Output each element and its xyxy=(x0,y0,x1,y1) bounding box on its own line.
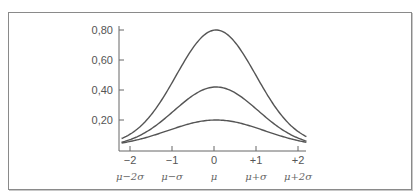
y-tick-label: 0,60 xyxy=(92,54,113,66)
y-tick-label: 0,40 xyxy=(92,84,113,96)
curves xyxy=(122,30,307,143)
x-tick-label: −1 xyxy=(166,154,179,166)
x-tick-label: −2 xyxy=(124,154,137,166)
x-tick-sublabel: μ−2σ xyxy=(116,171,145,182)
y-tick-label: 0,80 xyxy=(92,24,113,36)
curve-low xyxy=(122,120,307,143)
x-tick-label: +2 xyxy=(292,154,305,166)
x-tick-sublabel: μ xyxy=(211,171,218,182)
x-tick-sublabel: μ+2σ xyxy=(284,171,313,182)
normal-distribution-chart: 0,800,600,400,20 −2μ−2σ−1μ−σ0μ+1μ+σ+2μ+2… xyxy=(0,0,418,196)
x-tick-label: +1 xyxy=(250,154,263,166)
x-tick-sublabel: μ−σ xyxy=(161,171,184,182)
curve-tall xyxy=(122,30,307,138)
x-tick-label: 0 xyxy=(211,154,217,166)
y-tick-label: 0,20 xyxy=(92,114,113,126)
x-tick-sublabel: μ+σ xyxy=(245,171,268,182)
curve-medium xyxy=(122,87,307,142)
